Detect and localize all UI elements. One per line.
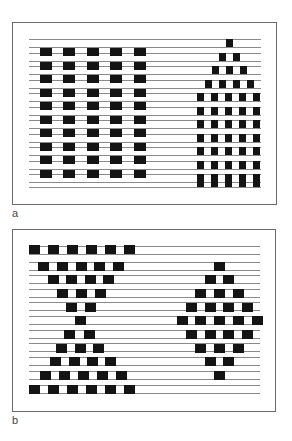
thread-line	[29, 385, 260, 386]
left-checker-block	[87, 156, 99, 164]
right-pyramid-block	[240, 66, 247, 74]
left-checker-block	[110, 170, 122, 178]
left-checker-block	[63, 156, 75, 164]
left-hourglass-block	[87, 357, 98, 366]
right-diamond-block	[195, 344, 206, 353]
right-diamond-block	[233, 344, 244, 353]
left-checker-block	[110, 89, 122, 97]
left-checker-block	[40, 129, 52, 137]
right-pyramid-block	[239, 93, 246, 101]
right-pyramid-block	[253, 179, 260, 187]
left-checker-block	[40, 116, 52, 124]
right-pyramid-block	[219, 53, 226, 61]
left-checker-block	[87, 116, 99, 124]
thread-line	[29, 324, 260, 325]
right-pyramid-block	[211, 147, 218, 155]
right-diamond-block	[214, 316, 225, 325]
left-hourglass-block	[105, 385, 116, 394]
left-checker-block	[87, 48, 99, 56]
left-checker-block	[40, 89, 52, 97]
left-checker-block	[134, 62, 146, 70]
left-checker-block	[110, 156, 122, 164]
left-hourglass-block	[29, 385, 40, 394]
right-pyramid-block	[239, 134, 246, 142]
left-checker-block	[87, 129, 99, 137]
right-diamond-block	[223, 303, 234, 312]
right-diamond-block	[242, 330, 253, 339]
left-checker-block	[110, 143, 122, 151]
right-diamond-block	[205, 330, 216, 339]
right-diamond-block	[242, 303, 253, 312]
right-diamond-block	[205, 275, 216, 284]
right-pyramid-block	[197, 134, 204, 142]
left-checker-block	[110, 102, 122, 110]
left-checker-block	[40, 156, 52, 164]
right-pyramid-block	[197, 107, 204, 115]
left-hourglass-block	[85, 275, 96, 284]
left-checker-block	[134, 116, 146, 124]
left-checker-block	[87, 89, 99, 97]
left-hourglass-block	[48, 245, 59, 254]
right-pyramid-block	[225, 93, 232, 101]
left-checker-block	[63, 116, 75, 124]
right-diamond-block	[223, 330, 234, 339]
left-checker-block	[87, 75, 99, 83]
left-hourglass-block	[85, 303, 96, 312]
left-hourglass-block	[103, 275, 114, 284]
left-hourglass-block	[97, 371, 108, 380]
right-pyramid-block	[225, 134, 232, 142]
right-diamond-block	[186, 303, 197, 312]
left-checker-block	[63, 129, 75, 137]
left-checker-block	[63, 102, 75, 110]
left-checker-block	[110, 62, 122, 70]
right-pyramid-block	[225, 147, 232, 155]
left-hourglass-block	[48, 275, 59, 284]
left-checker-block	[134, 170, 146, 178]
left-hourglass-block	[59, 371, 70, 380]
right-pyramid-block	[239, 179, 246, 187]
right-diamond-block	[233, 316, 244, 325]
right-diamond-block	[177, 316, 188, 325]
right-diamond-block	[233, 289, 244, 298]
panel-label-b: b	[12, 415, 18, 426]
left-hourglass-block	[69, 357, 80, 366]
left-hourglass-block	[64, 330, 75, 339]
right-pyramid-block	[211, 161, 218, 169]
right-pyramid-block	[233, 80, 240, 88]
right-pyramid-block	[253, 161, 260, 169]
left-hourglass-block	[78, 371, 89, 380]
right-pyramid-block	[211, 179, 218, 187]
right-pyramid-block	[253, 120, 260, 128]
left-hourglass-block	[29, 245, 40, 254]
right-pyramid-block	[239, 147, 246, 155]
left-hourglass-block	[94, 262, 105, 271]
left-checker-block	[40, 102, 52, 110]
right-pyramid-block	[197, 120, 204, 128]
left-checker-block	[63, 143, 75, 151]
left-hourglass-block	[124, 385, 135, 394]
left-checker-block	[134, 143, 146, 151]
left-checker-block	[110, 116, 122, 124]
panel-label-a: a	[12, 208, 18, 219]
left-hourglass-block	[95, 289, 106, 298]
left-hourglass-block	[67, 385, 78, 394]
right-pyramid-block	[211, 134, 218, 142]
left-hourglass-block	[66, 303, 77, 312]
left-hourglass-block	[124, 245, 135, 254]
right-pyramid-block	[219, 80, 226, 88]
left-hourglass-block	[86, 245, 97, 254]
left-checker-block	[110, 48, 122, 56]
left-checker-block	[40, 143, 52, 151]
right-diamond-block	[205, 357, 216, 366]
left-checker-block	[110, 129, 122, 137]
right-pyramid-block	[239, 161, 246, 169]
right-pyramid-block	[211, 107, 218, 115]
right-pyramid-block	[253, 147, 260, 155]
right-diamond-block	[214, 371, 225, 380]
left-checker-block	[134, 75, 146, 83]
left-checker-block	[87, 62, 99, 70]
right-pyramid-block	[226, 39, 233, 47]
left-checker-block	[40, 170, 52, 178]
left-checker-block	[63, 62, 75, 70]
left-checker-block	[40, 48, 52, 56]
